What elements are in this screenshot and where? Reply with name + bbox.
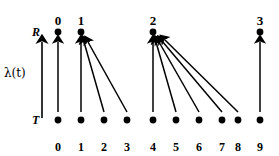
transmitter-row-label: T — [32, 113, 39, 128]
transmitter-tick-2: 2 — [94, 141, 114, 153]
receiver-dot-1 — [78, 29, 85, 36]
transmitter-dot-0 — [55, 117, 62, 124]
figure-canvas: 0123 0123456789 R T λ(t) — [0, 0, 279, 156]
transmitter-dot-2 — [101, 117, 108, 124]
transmitter-dot-7 — [219, 117, 226, 124]
lambda-function-label: λ(t) — [4, 66, 26, 80]
receiver-tick-0: 0 — [48, 14, 68, 27]
transmitter-dot-8 — [235, 117, 242, 124]
mapping-arrow-8-to-2 — [165, 40, 238, 112]
receiver-dot-3 — [257, 29, 264, 36]
diagram-svg — [0, 0, 279, 156]
transmitter-tick-6: 6 — [189, 141, 209, 153]
mapping-arrow-5-to-2 — [156, 42, 176, 112]
transmitter-dot-3 — [124, 117, 131, 124]
transmitter-tick-8: 8 — [228, 141, 248, 153]
receiver-tick-1: 1 — [71, 14, 91, 27]
transmitter-dot-4 — [150, 117, 157, 124]
transmitter-tick-1: 1 — [71, 141, 91, 153]
transmitter-dot-9 — [257, 117, 264, 124]
transmitter-tick-0: 0 — [48, 141, 68, 153]
transmitter-tick-5: 5 — [166, 141, 186, 153]
receiver-tick-2: 2 — [143, 14, 163, 27]
receiver-dot-2 — [150, 29, 157, 36]
receiver-row-label: R — [32, 25, 40, 40]
transmitter-dot-1 — [78, 117, 85, 124]
mapping-arrow-7-to-2 — [162, 41, 222, 112]
transmitter-dot-6 — [196, 117, 203, 124]
receiver-tick-3: 3 — [250, 14, 270, 27]
transmitter-tick-3: 3 — [117, 141, 137, 153]
transmitter-dot-5 — [173, 117, 180, 124]
receiver-dot-0 — [55, 29, 62, 36]
transmitter-tick-9: 9 — [250, 141, 270, 153]
transmitter-tick-4: 4 — [143, 141, 163, 153]
mapping-arrows — [58, 40, 260, 112]
